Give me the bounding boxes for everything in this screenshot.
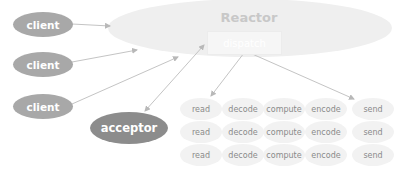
task-compute: compute <box>263 144 305 166</box>
task-compute: compute <box>263 121 305 143</box>
task-encode: encode <box>305 98 347 120</box>
task-decode: decode <box>222 121 264 143</box>
task-read: read <box>180 121 222 143</box>
task-encode: encode <box>305 144 347 166</box>
task-decode: decode <box>222 98 264 120</box>
task-send: send <box>352 98 394 120</box>
arrow-client1-reactor <box>72 24 110 26</box>
task-send: send <box>352 144 394 166</box>
client-node-3: client <box>13 94 73 119</box>
reactor-title: Reactor <box>218 10 280 25</box>
arrow-dispatch-send <box>250 53 354 99</box>
task-decode: decode <box>222 144 264 166</box>
task-encode: encode <box>305 121 347 143</box>
acceptor-node: acceptor <box>90 112 168 144</box>
task-send: send <box>352 121 394 143</box>
dispatch-box: dispatch <box>207 31 282 55</box>
arrow-client3-reactor <box>72 57 178 104</box>
client-node-1: client <box>13 12 73 37</box>
arrow-dispatch-read <box>211 53 244 96</box>
task-read: read <box>180 144 222 166</box>
task-read: read <box>180 98 222 120</box>
arrow-client2-reactor <box>72 50 137 62</box>
task-compute: compute <box>263 98 305 120</box>
client-node-2: client <box>13 52 73 77</box>
